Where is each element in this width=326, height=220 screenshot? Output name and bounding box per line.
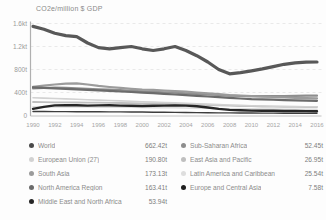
legend-item-value: 662.42t [141,142,167,149]
legend-dot-icon [29,199,34,204]
series-line-world [33,26,317,73]
x-tick-label: 2014 [288,122,302,128]
legend-item[interactable]: Europe and Central Asia7.58t [181,180,323,194]
legend-item[interactable]: North America Region163.41t [29,180,167,194]
x-tick-label: 2016 [310,122,324,128]
x-tick-label: 2012 [267,122,281,128]
legend-dot-icon [29,143,34,148]
legend-item-value: 173.13t [141,170,167,177]
legend-item[interactable]: World662.42t [29,138,167,152]
legend-item-value: 7.58t [304,184,323,191]
legend-item-label: World [38,142,55,149]
legend-item-label: Sub-Saharan Africa [190,142,247,149]
x-tick-label: 2004 [179,122,193,128]
legend-item[interactable]: East Asia and Pacific26.95t [181,152,323,166]
x-tick-label: 1998 [114,122,128,128]
legend-item-value: 190.80t [141,156,167,163]
x-tick-label: 1994 [70,122,84,128]
legend-item-value: 52.45t [301,142,323,149]
legend-dot-icon [29,185,34,190]
legend-dot-icon [181,157,186,162]
y-tick-label: 1.6kt [13,20,27,27]
x-tick-label: 2006 [201,122,215,128]
legend-dot-icon [29,171,34,176]
legend-item[interactable]: Middle East and North Africa53.94t [29,194,167,208]
legend-column-left: World662.42tEuropean Union (27)190.80tSo… [29,138,167,208]
legend-item-label: Europe and Central Asia [190,184,261,191]
y-tick-label: 0 [23,112,27,119]
legend-item-label: North America Region [38,184,103,191]
legend-item[interactable]: South Asia173.13t [29,166,167,180]
legend-column-right: Sub-Saharan Africa52.45tEast Asia and Pa… [181,138,323,208]
legend-item[interactable]: Sub-Saharan Africa52.45t [181,138,323,152]
legend-item[interactable]: Latin America and Caribbean25.54t [181,166,323,180]
legend-item-label: South Asia [38,170,70,177]
legend-item-value: 25.54t [301,170,323,177]
x-tick-label: 2008 [223,122,237,128]
legend-item-value: 163.41t [141,184,167,191]
legend-dot-icon [29,157,34,162]
legend-item[interactable]: European Union (27)190.80t [29,152,167,166]
legend-item-value: 26.95t [301,156,323,163]
line-chart-canvas: 0400t800t1.2kt1.6kt199019921994199619982… [0,0,326,133]
legend-dot-icon [181,185,186,190]
x-tick-label: 1996 [92,122,106,128]
y-tick-label: 400t [14,89,27,96]
x-tick-label: 2002 [157,122,171,128]
x-tick-label: 1990 [26,122,40,128]
legend-item-label: Latin America and Caribbean [190,170,275,177]
x-tick-label: 2000 [136,122,150,128]
legend-item-label: Middle East and North Africa [38,198,122,205]
y-tick-label: 1.2kt [13,43,27,50]
legend-dot-icon [181,143,186,148]
x-tick-label: 1992 [48,122,62,128]
x-tick-label: 2010 [245,122,259,128]
y-tick-label: 800t [14,66,27,73]
legend-dot-icon [181,171,186,176]
legend-item-value: 53.94t [145,198,167,205]
legend-item-label: European Union (27) [38,156,99,163]
legend: World662.42tEuropean Union (27)190.80tSo… [29,138,323,208]
legend-item-label: East Asia and Pacific [190,156,252,163]
series-line-south-asia [33,83,317,98]
